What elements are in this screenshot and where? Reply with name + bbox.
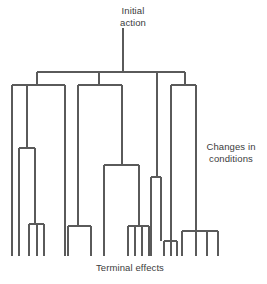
label-terminal-effects: Terminal effects [70, 262, 190, 274]
dendrogram-figure: Initial action Changes in conditions Ter… [0, 0, 267, 284]
label-changes-in-conditions: Changes in conditions [198, 141, 264, 164]
label-initial-action: Initial action [96, 5, 170, 28]
